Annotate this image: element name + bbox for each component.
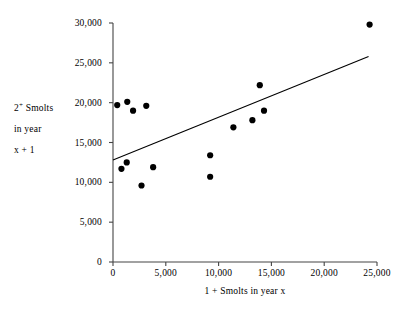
trend-line (113, 56, 369, 160)
data-point (143, 103, 149, 109)
data-point (257, 82, 263, 88)
regression-line (113, 56, 369, 160)
axis-lines (113, 23, 377, 262)
data-point (118, 166, 124, 172)
data-point (230, 124, 236, 130)
data-point (124, 159, 130, 165)
data-point (114, 102, 120, 108)
data-point (261, 108, 267, 114)
data-points (114, 21, 373, 188)
data-point (207, 152, 213, 158)
data-point (150, 164, 156, 170)
scatter-chart-figure: 2+ Smolts in year x + 1 1 + Smolts in ye… (0, 0, 396, 311)
data-point (124, 99, 130, 105)
plot-area (0, 0, 396, 311)
data-point (249, 117, 255, 123)
y-axis-ticks (109, 23, 113, 262)
data-point (367, 21, 373, 27)
data-point (207, 174, 213, 180)
data-point (130, 108, 136, 114)
x-axis-ticks (113, 262, 377, 266)
data-point (138, 182, 144, 188)
